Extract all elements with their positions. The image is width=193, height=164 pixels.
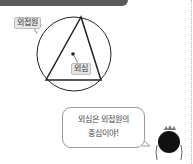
character-icon <box>156 125 182 160</box>
character-arm-left <box>156 145 157 160</box>
speech-line-2: 중심이야! <box>63 127 144 141</box>
circumcenter-label: 외심 <box>71 63 91 75</box>
character-arm-right <box>181 145 182 160</box>
speech-bubble: 외심은 외접원의 중심이야! <box>62 107 145 148</box>
circumcenter-point <box>71 52 75 56</box>
circumcircle-label: 외접원 <box>14 17 41 29</box>
circumcenter-label-leader <box>74 56 78 63</box>
speech-line-1: 외심은 외접원의 <box>63 113 144 127</box>
character-body <box>158 131 180 153</box>
character-leaf-icon <box>164 125 176 130</box>
